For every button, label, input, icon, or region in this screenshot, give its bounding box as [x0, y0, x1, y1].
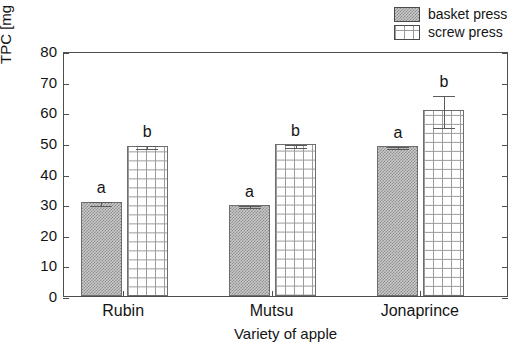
y-tick-mark-right: [502, 114, 508, 115]
y-tick-label: 30: [11, 197, 57, 212]
x-tick-mark: [420, 291, 421, 297]
y-tick-mark: [63, 298, 69, 299]
bar-rubin-basket-press: [81, 202, 122, 296]
y-tick-mark-right: [502, 267, 508, 268]
legend-item-basket-press: basket press: [394, 6, 526, 23]
bar-mutsu-screw-press: [275, 144, 316, 296]
legend-label-screw-press: screw press: [428, 25, 503, 40]
legend-swatch-basket-press: [394, 7, 420, 22]
x-tick-mark: [123, 291, 124, 297]
y-tick-mark: [63, 176, 69, 177]
y-tick-mark-right: [502, 298, 508, 299]
error-bar: [444, 96, 445, 128]
error-bar-cap-upper: [433, 96, 455, 97]
y-tick-mark: [63, 84, 69, 85]
legend-swatch-screw-press: [394, 25, 420, 40]
error-bar-cap-upper: [90, 202, 112, 203]
y-tick-mark: [63, 267, 69, 268]
legend-label-basket-press: basket press: [428, 7, 507, 22]
y-tick-label: 50: [11, 136, 57, 151]
y-tick-mark-right: [502, 206, 508, 207]
y-tick-mark: [63, 237, 69, 238]
error-bar-cap-lower: [136, 149, 158, 150]
x-tick-mark: [272, 291, 273, 297]
bar-jonaprince-screw-press: [423, 110, 464, 296]
y-tick-mark: [63, 53, 69, 54]
bar-mutsu-basket-press: [229, 205, 270, 296]
significance-letter: b: [275, 123, 316, 139]
y-tick-mark-right: [502, 84, 508, 85]
y-tick-mark-right: [502, 176, 508, 177]
y-tick-label: 60: [11, 105, 57, 120]
y-tick-mark-right: [502, 237, 508, 238]
y-tick-label: 20: [11, 228, 57, 243]
significance-letter: a: [377, 125, 418, 141]
chart-figure: basket press screw press TPC [mg GAE 100…: [0, 0, 526, 361]
y-tick-label: 0: [11, 289, 57, 304]
y-tick-mark-right: [502, 145, 508, 146]
significance-letter: a: [229, 184, 270, 200]
error-bar-cap-upper: [136, 146, 158, 147]
x-category-label-jonaprince: Jonaprince: [360, 302, 480, 320]
y-tick-mark: [63, 206, 69, 207]
error-bar-cap-lower: [239, 208, 261, 209]
x-category-label-mutsu: Mutsu: [212, 302, 332, 320]
y-tick-mark-right: [502, 53, 508, 54]
bar-jonaprince-basket-press: [377, 146, 418, 296]
error-bar-cap-lower: [433, 128, 455, 129]
error-bar-cap-lower: [90, 206, 112, 207]
y-tick-label: 70: [11, 75, 57, 90]
y-tick-label: 40: [11, 167, 57, 182]
chart-legend: basket press screw press: [394, 6, 526, 42]
significance-letter: b: [423, 74, 464, 90]
legend-item-screw-press: screw press: [394, 24, 526, 41]
significance-letter: b: [127, 124, 168, 140]
error-bar-cap-upper: [285, 145, 307, 146]
y-tick-mark: [63, 145, 69, 146]
error-bar-cap-lower: [387, 149, 409, 150]
y-tick-label: 10: [11, 258, 57, 273]
y-tick-mark: [63, 114, 69, 115]
x-category-label-rubin: Rubin: [63, 302, 183, 320]
significance-letter: a: [81, 180, 122, 196]
plot-area: ababab: [63, 52, 508, 297]
bar-rubin-screw-press: [127, 146, 168, 296]
error-bar-cap-lower: [285, 148, 307, 149]
x-axis-title: Variety of apple: [63, 325, 508, 342]
error-bar-cap-upper: [387, 147, 409, 148]
y-tick-label: 80: [11, 44, 57, 59]
